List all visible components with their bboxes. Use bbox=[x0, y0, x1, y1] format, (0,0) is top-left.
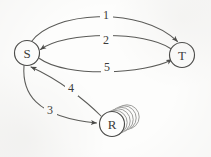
edge-3-label: 3 bbox=[47, 103, 53, 117]
state-transition-diagram: 1 2 5 3 4 bbox=[0, 0, 211, 157]
node-t[interactable]: T bbox=[170, 43, 195, 68]
edge-2-label: 2 bbox=[103, 33, 109, 47]
node-r-label: R bbox=[108, 117, 117, 132]
node-s[interactable]: S bbox=[15, 41, 40, 66]
node-t-label: T bbox=[178, 48, 186, 63]
edge-4[interactable]: 4 bbox=[31, 67, 101, 116]
edge-5-label: 5 bbox=[104, 60, 110, 74]
edge-3-path bbox=[24, 66, 97, 124]
edge-2[interactable]: 2 bbox=[41, 33, 171, 50]
node-s-label: S bbox=[23, 46, 30, 61]
node-r[interactable]: R bbox=[100, 105, 140, 137]
edge-5[interactable]: 5 bbox=[40, 59, 173, 76]
diagram-canvas: 1 2 5 3 4 bbox=[0, 0, 211, 157]
edge-3[interactable]: 3 bbox=[24, 66, 97, 124]
edge-1-label: 1 bbox=[103, 8, 109, 22]
edge-4-label: 4 bbox=[68, 81, 74, 95]
